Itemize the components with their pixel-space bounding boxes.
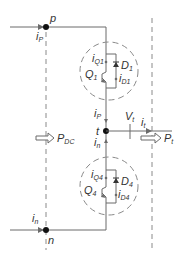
D4-label: D4 (121, 175, 133, 188)
Q1-label: Q1 (85, 68, 98, 81)
node-n (43, 227, 49, 233)
pdc-hollow-arrow-icon (36, 133, 54, 143)
node-n-label: n (48, 234, 54, 246)
pdc-label: PDC (57, 132, 75, 145)
D1-label: D1 (121, 59, 133, 72)
node-p-label: p (49, 12, 56, 24)
iD1-label: iD1 (119, 72, 131, 85)
in-mid-label: in (94, 136, 100, 149)
iQ1-label: iQ1 (92, 52, 104, 66)
D4-diode-icon (113, 178, 119, 183)
pt-label: Pt (164, 132, 174, 145)
iQ4-label: iQ4 (91, 168, 103, 182)
in-mid-arrow-icon (104, 139, 108, 143)
Q4-switch (102, 170, 116, 203)
Q4-label: Q4 (84, 184, 97, 197)
ip-mid-arrow-icon (104, 119, 108, 123)
half-bridge-diagram: p iP iQ1 D1 Q1 iD1 iP Vt it t in PDC Pt … (0, 0, 187, 258)
ip-top-label: iP (36, 30, 43, 43)
ip-mid-label: iP (94, 107, 101, 120)
D1-diode-icon (113, 62, 119, 67)
Q1-switch (102, 54, 116, 88)
it-label: it (141, 116, 146, 129)
iD4-label: iD4 (118, 188, 130, 201)
vt-label: Vt (125, 110, 135, 123)
it-arrow-icon (146, 128, 152, 134)
node-t-label: t (96, 125, 100, 137)
pt-hollow-arrow-icon (141, 133, 161, 143)
in-bottom-label: in (32, 212, 38, 225)
node-p (43, 24, 49, 30)
